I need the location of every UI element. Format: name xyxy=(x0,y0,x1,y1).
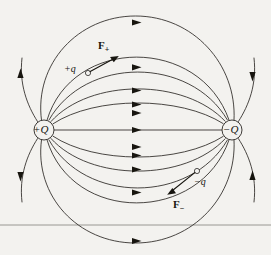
field-line-left-up xyxy=(21,58,37,122)
force-vector-negative xyxy=(167,173,195,195)
positive-charge-label: +Q xyxy=(33,124,48,135)
arrowhead-lower-1 xyxy=(132,144,142,150)
force-positive-subscript: + xyxy=(105,45,110,54)
arrowhead-upper-4 xyxy=(132,64,142,70)
field-line-right-down xyxy=(238,139,254,202)
field-line-right-up xyxy=(238,58,254,122)
force-positive-symbol: F xyxy=(98,39,105,51)
arrowhead-upper-1 xyxy=(132,110,142,116)
dipole-field-diagram: +Q −Q +q −q F+ F− xyxy=(0,0,271,255)
arrowhead-lower-3 xyxy=(132,166,142,172)
arrowhead-right-down xyxy=(249,171,255,181)
negative-test-charge-label: −q xyxy=(194,177,206,187)
arrowhead-lower-2 xyxy=(132,152,142,158)
force-positive-label: F+ xyxy=(98,40,109,54)
arrowhead-upper-2 xyxy=(132,101,142,107)
positive-test-charge-label: +q xyxy=(64,64,76,74)
force-vector-positive xyxy=(90,56,119,72)
arrowhead-axis xyxy=(132,127,142,133)
force-negative-label: F− xyxy=(173,199,184,213)
arrowhead-left-up xyxy=(17,69,23,79)
arrowhead-upper-3 xyxy=(132,87,142,93)
negative-charge-label: −Q xyxy=(223,124,238,135)
force-negative-symbol: F xyxy=(173,198,180,210)
arrowhead-outer-top xyxy=(132,19,142,25)
field-line-left-down xyxy=(21,139,37,202)
force-negative-subscript: − xyxy=(180,204,185,213)
arrowhead-lower-4 xyxy=(132,189,142,195)
